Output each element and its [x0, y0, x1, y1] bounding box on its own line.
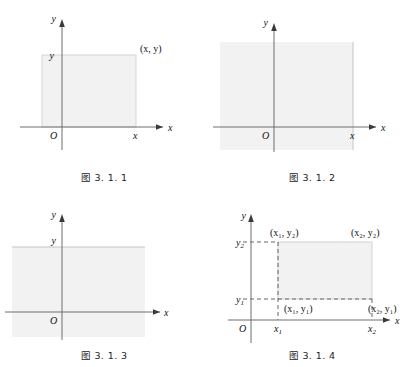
- x-tick-label: x: [349, 130, 355, 141]
- y-axis-label: y: [51, 209, 57, 220]
- x2-tick-label: x2: [367, 323, 376, 336]
- x-axis-arrow-icon: [156, 124, 163, 130]
- corner-bottom-right-label: (x₂, y₁): [368, 303, 397, 315]
- x1-tick-label: x1: [273, 323, 282, 336]
- x-axis-arrow-icon: [153, 309, 160, 315]
- x-axis-label: x: [163, 307, 169, 318]
- figure-3-1-4: y x O y2 y1 x1 x2 (x₁, y₂) (x₂, y₂) (x₁,…: [208, 190, 416, 367]
- figure-3-1-4-caption: 图 3. 1. 4: [208, 348, 416, 362]
- figure-3-1-1: y x O y x (x, y) 图 3. 1. 1: [0, 0, 208, 190]
- shaded-region: [12, 247, 145, 337]
- y-axis-label: y: [263, 17, 269, 28]
- y-axis-arrow-icon: [59, 214, 65, 222]
- figure-3-1-3: y x O y 图 3. 1. 3: [0, 190, 208, 367]
- figure-3-1-2-caption: 图 3. 1. 2: [208, 170, 416, 184]
- x-tick-label: x: [132, 130, 138, 141]
- shaded-region: [278, 242, 372, 299]
- figure-3-1-2: y x O x 图 3. 1. 2: [208, 0, 416, 190]
- origin-label: O: [239, 323, 246, 334]
- origin-label: O: [262, 130, 269, 141]
- y1-tick-label: y1: [235, 294, 244, 307]
- figure-3-1-1-plot: y x O y x (x, y): [0, 0, 208, 160]
- y-axis-arrow-icon: [271, 23, 277, 31]
- x-axis-arrow-icon: [369, 124, 376, 130]
- figure-3-1-3-caption: 图 3. 1. 3: [0, 348, 208, 362]
- corner-point-label: (x, y): [140, 43, 162, 55]
- corner-top-left-label: (x₁, y₂): [270, 227, 299, 239]
- shaded-region: [220, 42, 353, 150]
- origin-label: O: [50, 315, 57, 326]
- y-tick-label: y: [49, 50, 55, 61]
- x-axis-label: x: [394, 315, 400, 326]
- shaded-region: [42, 55, 136, 127]
- x-axis-label: x: [167, 122, 173, 133]
- y-axis-arrow-icon: [59, 19, 65, 27]
- corner-bottom-left-label: (x₁, y₁): [284, 303, 313, 315]
- figure-grid: y x O y x (x, y) 图 3. 1. 1 y x O x 图: [0, 0, 416, 367]
- x-axis-label: x: [380, 122, 386, 133]
- y-axis-label: y: [51, 13, 57, 24]
- y-axis-arrow-icon: [248, 214, 254, 222]
- figure-3-1-3-plot: y x O y: [0, 190, 208, 350]
- figure-3-1-1-caption: 图 3. 1. 1: [0, 170, 208, 184]
- figure-3-1-4-plot: y x O y2 y1 x1 x2 (x₁, y₂) (x₂, y₂) (x₁,…: [208, 190, 416, 350]
- origin-label: O: [50, 130, 57, 141]
- y-axis-label: y: [241, 210, 247, 221]
- x-axis-arrow-icon: [383, 317, 390, 323]
- y2-tick-label: y2: [235, 237, 244, 250]
- figure-3-1-2-plot: y x O x: [208, 0, 416, 160]
- y-tick-label: y: [51, 235, 57, 246]
- corner-top-right-label: (x₂, y₂): [351, 227, 380, 239]
